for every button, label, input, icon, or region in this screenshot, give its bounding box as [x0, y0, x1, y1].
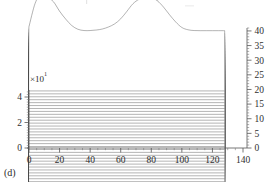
- y-right-tick-label: 40: [255, 26, 265, 36]
- y-right-tick-label: 35: [255, 41, 265, 51]
- waterfall-plot: 024 0510152025303540 020406080100120140 …: [0, 0, 268, 182]
- wave-trace: [29, 0, 225, 91]
- y-right-tick-label: 20: [255, 85, 265, 95]
- x-tick-label: 100: [175, 155, 190, 165]
- y-right-tick-label: 25: [255, 70, 265, 80]
- y-right-tick-label: 0: [255, 143, 260, 153]
- y-right-tick-label: 15: [255, 99, 265, 109]
- panel-label: (d): [4, 167, 16, 179]
- x-tick-label: 140: [236, 155, 251, 165]
- x-tick-label: 0: [27, 155, 32, 165]
- y-right-tick-label: 30: [255, 56, 265, 66]
- x-tick-label: 60: [116, 155, 126, 165]
- y-right-tick-label: 10: [255, 114, 265, 124]
- y-axis-right: 0510152025303540: [247, 26, 264, 153]
- y-left-tick-label: 0: [17, 143, 22, 153]
- x-tick-label: 20: [55, 155, 65, 165]
- x-tick-label: 40: [85, 155, 95, 165]
- figure-panel: 024 0510152025303540 020406080100120140 …: [0, 0, 268, 182]
- x-tick-label: 80: [147, 155, 157, 165]
- y-left-tick-label: 2: [17, 118, 22, 128]
- y-axis-left: 024: [17, 90, 29, 153]
- y-right-tick-label: 5: [255, 129, 260, 139]
- x-tick-label: 120: [205, 155, 220, 165]
- y-left-tick-label: 4: [17, 92, 22, 102]
